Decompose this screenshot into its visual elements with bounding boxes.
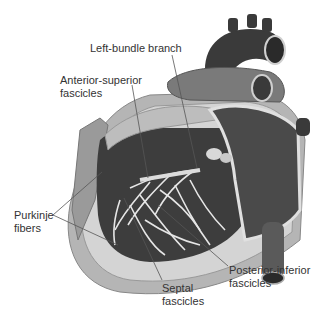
label-posterior-inferior-fascicles: Posterior-inferior fascicles bbox=[229, 264, 310, 290]
heart-diagram: Left-bundle branch Anterior-superior fas… bbox=[0, 0, 328, 312]
label-purkinje-fibers: Purkinje fibers bbox=[14, 209, 54, 235]
label-septal-fascicles: Septal fascicles bbox=[162, 282, 204, 308]
label-anterior-superior-fascicles: Anterior-superior fascicles bbox=[60, 74, 142, 100]
label-left-bundle-branch: Left-bundle branch bbox=[90, 42, 182, 55]
